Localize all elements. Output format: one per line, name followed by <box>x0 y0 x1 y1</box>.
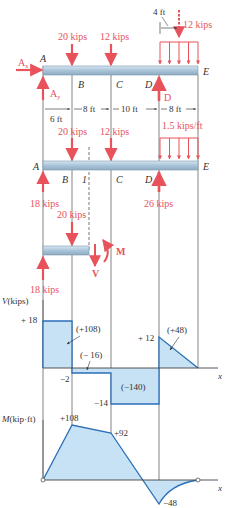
equivalent-load-label: 12 kips <box>183 19 212 30</box>
equiv-dim-label: 4 ft <box>153 7 166 17</box>
point-E-label-2: E <box>202 161 209 172</box>
shear-vD-label: + 12 <box>138 333 154 343</box>
shear-diagram: V(kips) x + 18 (+108) (− 16) −2 (−140) −… <box>2 296 222 408</box>
moment-mB-label: +108 <box>60 413 79 423</box>
moment-mC-label: +92 <box>114 428 128 438</box>
shear-V-label: V <box>92 268 100 279</box>
moment-M-label: M <box>116 246 126 257</box>
free-body-diagram-2: 20 kips 12 kips 1.5 kips/ft A E B 1 C D … <box>30 120 209 209</box>
moment-x-label: x <box>217 483 222 493</box>
shear-area-CD-label: (−140) <box>121 382 146 392</box>
section-beam <box>43 246 89 255</box>
point-A-label-2: A <box>32 161 40 172</box>
point-E-label: E <box>202 66 209 77</box>
reaction-A-label-2: 18 kips <box>30 198 59 209</box>
load-C-label-2: 12 kips <box>100 126 129 137</box>
section-reaction-label: 18 kips <box>30 284 59 295</box>
point-D-label-2: D <box>144 174 153 185</box>
shear-x-label: x <box>217 371 222 381</box>
reaction-Ax-label: Ax <box>18 57 28 69</box>
dim-CD-label: 10 ft <box>121 104 138 114</box>
free-body-diagram-1: Ax A Ay 20 kips 12 kips 12 kips 4 ft E B… <box>16 7 212 124</box>
reaction-D-label-2: 26 kips <box>144 198 173 209</box>
moment-M-arrow <box>103 240 108 262</box>
load-B-label-2: 20 kips <box>58 126 87 137</box>
section-free-body: 20 kips V M 18 kips <box>30 209 126 295</box>
beam-1 <box>43 66 198 75</box>
distributed-load-2 <box>160 138 198 159</box>
shear-area-BC-label: (− 16) <box>80 350 102 360</box>
point-A-label: A <box>39 53 47 64</box>
point-C-label: C <box>116 79 123 90</box>
distributed-load-1 <box>160 42 198 64</box>
point-C-label-2: C <box>116 174 123 185</box>
point-B-label: B <box>78 79 84 90</box>
dim-DE-label: 8 ft <box>169 104 182 114</box>
shear-vA-label: + 18 <box>21 315 38 325</box>
dim-BC-label: 8 ft <box>83 104 96 114</box>
reaction-D-label: D <box>164 92 171 103</box>
shear-vC-label: −14 <box>94 398 109 408</box>
beam-analysis-figure: Ax A Ay 20 kips 12 kips 12 kips 4 ft E B… <box>0 0 228 508</box>
beam-2 <box>43 161 198 170</box>
reaction-Ay-label: Ay <box>50 88 60 100</box>
dim-AB-label: 6 ft <box>50 114 63 124</box>
load-B-label: 20 kips <box>58 31 87 42</box>
shear-y-label: V(kips) <box>2 296 29 306</box>
load-C-label: 12 kips <box>100 31 129 42</box>
shear-area-DE-label: (+48) <box>167 325 187 335</box>
point-D-label: D <box>144 79 153 90</box>
shear-vB-label: −2 <box>60 374 70 384</box>
moment-diagram: M(kip·ft) x +108 +92 −48 <box>1 413 222 508</box>
section-1-label: 1 <box>82 174 87 185</box>
dist-load-label: 1.5 kips/ft <box>162 120 203 131</box>
point-B-label-2: B <box>62 174 68 185</box>
shear-area-AB-label: (+108) <box>76 324 101 334</box>
moment-mD-label: −48 <box>163 498 178 508</box>
section-load-label: 20 kips <box>57 209 86 220</box>
moment-y-label: M(kip·ft) <box>1 414 36 424</box>
